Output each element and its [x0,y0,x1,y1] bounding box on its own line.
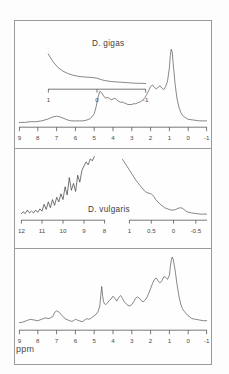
tick-label: 4 [104,337,122,344]
inset-d-gigas-upfield: 10-1 [48,48,146,96]
inset-d-vulgaris-downfield: 12111098 [19,155,119,245]
inset-trace-d-vulgaris-upfield [129,155,209,219]
tick-label: 2 [142,337,160,344]
tick-label: 11 [33,227,51,234]
tick-label: 6 [66,134,84,141]
tick-label: 3 [123,337,141,344]
tick-label: 8 [29,337,47,344]
panel-d-gigas: D. gigas 10-1 9876543210-1 [14,20,212,148]
tick-label: 3 [123,134,141,141]
axis-d-gigas [19,126,207,134]
tick-label: 5 [85,337,103,344]
tick-label: 9 [10,337,28,344]
axis-d-vulgaris [19,329,207,337]
tick-label: 1 [160,134,178,141]
tick-label: -0.5 [187,227,205,234]
tick-label: 7 [48,134,66,141]
tick-label: 10 [54,227,72,234]
inset-d-vulgaris-upfield: 10.50-0.5 [129,155,209,245]
tick-label: -1 [198,337,216,344]
nmr-figure: D. gigas 10-1 9876543210-1 D. vulgaris 1… [0,0,229,374]
tick-label: 1 [160,337,178,344]
tick-label: 0.5 [142,227,160,234]
tick-label: 8 [29,134,47,141]
tick-label: 0 [179,337,197,344]
inset-trace-d-gigas [48,48,146,88]
tick-label: 0 [179,134,197,141]
tick-label: 0 [165,227,183,234]
panel-d-vulgaris-main: 9876543210-1 ppm [14,249,212,365]
tick-label: 8 [96,227,114,234]
inset-axis-d-vulgaris-upfield [129,219,207,227]
tick-label: -1 [198,134,216,141]
tick-label: 9 [10,134,28,141]
inset-axis-d-vulgaris-downfield [21,219,105,227]
inset-axis-d-gigas [48,88,146,96]
tick-label: 6 [66,337,84,344]
ppm-axis-label: ppm [16,344,34,354]
spectrum-trace-d-vulgaris [14,249,212,365]
panel-d-vulgaris-insets: D. vulgaris 12111098 10.50-0.5 [14,149,212,248]
tick-label: 0 [88,96,106,103]
tick-label: 4 [104,134,122,141]
tick-label: -1 [137,96,155,103]
tick-label: 2 [142,134,160,141]
tick-label: 9 [75,227,93,234]
inset-trace-d-vulgaris-downfield [19,155,119,219]
tick-label: 12 [12,227,30,234]
tick-label: 1 [39,96,57,103]
tick-label: 5 [85,134,103,141]
tick-label: 7 [48,337,66,344]
tick-label: 1 [120,227,138,234]
